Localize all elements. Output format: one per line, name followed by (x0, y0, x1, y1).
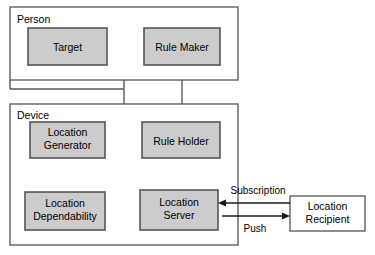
node-location-server-label-line2: Server (164, 209, 195, 221)
node-location-recipient-label-line2: Recipient (306, 213, 350, 225)
arrow-push-head (282, 213, 290, 220)
diagram-canvas: Person Device Target Rule Maker Location… (0, 0, 375, 255)
node-rule-maker-label: Rule Maker (155, 41, 209, 53)
edge-label-push: Push (244, 223, 267, 234)
node-location-generator-label-line2: Generator (44, 139, 92, 151)
node-location-server-label-line1: Location (159, 196, 199, 208)
node-location-recipient-label-line1: Location (308, 200, 348, 212)
component-diagram: Person Device Target Rule Maker Location… (0, 0, 375, 255)
node-location-generator-label-line1: Location (48, 126, 88, 138)
node-rule-holder-label: Rule Holder (153, 135, 209, 147)
group-person-label: Person (17, 13, 50, 25)
edge-label-subscription: Subscription (230, 185, 285, 196)
node-location-dependability-label-line1: Location (45, 197, 85, 209)
node-location-dependability-label-line2: Dependability (33, 210, 97, 222)
node-target-label: Target (53, 41, 82, 53)
group-device-label: Device (17, 109, 49, 121)
